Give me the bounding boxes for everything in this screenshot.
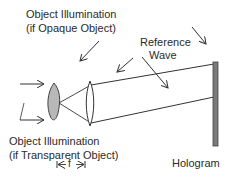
reference-arrow-1 bbox=[117, 58, 133, 72]
transparent-label-line2: (if Transparent Object) bbox=[9, 149, 118, 161]
hologram-plate bbox=[213, 62, 218, 146]
reference-label-line1: Reference bbox=[140, 36, 191, 48]
transparent-label-line1: Object Illumination bbox=[9, 135, 100, 147]
hologram-label: Hologram bbox=[172, 157, 220, 169]
opaque-label-line2: (if Opaque Object) bbox=[26, 22, 116, 34]
focal-length-label: f bbox=[68, 158, 71, 170]
lens-shape bbox=[86, 81, 94, 126]
beam-lower bbox=[91, 97, 214, 123]
beam-upper bbox=[91, 64, 214, 85]
opaque-illumination-arrow bbox=[80, 41, 99, 61]
opaque-label-line1: Object Illumination bbox=[26, 8, 117, 20]
reference-arrow-3 bbox=[192, 27, 206, 44]
object-shape bbox=[48, 83, 60, 120]
reference-label-line2: Wave bbox=[149, 49, 177, 61]
